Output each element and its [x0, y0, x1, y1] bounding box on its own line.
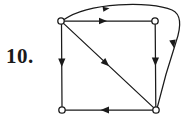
top-right-vertex: [152, 18, 158, 24]
top-left-vertex: [58, 18, 64, 24]
figure-root: 10.: [0, 0, 187, 123]
graph-edges: [58, 4, 180, 113]
bottom-right-vertex: [153, 107, 159, 113]
edge-right-arrowhead: [152, 58, 159, 67]
edge-left-arrowhead: [58, 59, 65, 68]
edge-top-arrowhead: [99, 18, 107, 24]
directed-graph-canvas: [0, 0, 187, 123]
edge-bottom-arrowhead: [101, 107, 109, 114]
edge-top-left-to-bottom-right-curved-path: [64, 4, 180, 106]
bottom-left-vertex: [59, 107, 65, 113]
